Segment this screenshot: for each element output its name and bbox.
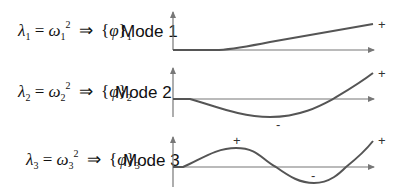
- mode-1-end-sign: +: [378, 17, 386, 32]
- mode-3-plot: + - +: [173, 133, 386, 187]
- mode-3-end-sign: +: [378, 133, 386, 148]
- mode-1-plot: +: [173, 12, 386, 50]
- mode-1-curve: [173, 24, 373, 50]
- mode-2-end-sign: +: [378, 66, 386, 81]
- mode-2-sign-minus: -: [276, 117, 280, 132]
- mode-3-sign-minus: -: [311, 168, 315, 183]
- mode-2-plot: - +: [173, 66, 386, 132]
- mode-3-sign-plus: +: [233, 133, 241, 148]
- mode-3-curve: [173, 141, 373, 183]
- mode-shape-plots: + - + + - +: [0, 0, 403, 196]
- mode-2-curve: [173, 73, 373, 117]
